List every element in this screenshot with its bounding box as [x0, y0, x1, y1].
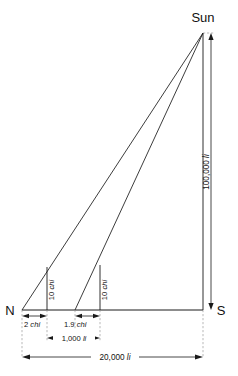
arrow-head-sun-height-top	[208, 33, 213, 40]
arrow-head-station-separation-left	[47, 336, 54, 340]
dimension-shadow-north: 2 chi	[22, 314, 47, 329]
dimension-label-gnomon-north-height: 10 chi	[47, 280, 56, 301]
label-south: S	[217, 303, 226, 318]
label-sun: Sun	[191, 10, 214, 25]
station-separation-value: 1,000	[62, 334, 81, 343]
label-north: N	[5, 303, 14, 318]
dimension-label-station-separation: 1,000 li	[62, 334, 87, 343]
dimension-baseline-total: 20,000 li	[22, 349, 203, 363]
baseline-total-unit: li	[127, 353, 131, 362]
dimension-shadow-south: 1.9 chi	[64, 314, 100, 329]
shadow-south-value: 1.9	[64, 320, 75, 329]
dimension-gnomon-north-height: 10 chi	[47, 280, 56, 301]
gnomon-south-height-unit: chi	[100, 280, 109, 290]
dimension-label-sun-height: 100,000 li	[202, 154, 211, 190]
sun-ray-to-south-station	[75, 33, 203, 310]
arrow-head-shadow-north-right	[40, 314, 47, 318]
arrow-head-shadow-south-left	[75, 314, 82, 318]
extension-lines-group	[22, 33, 215, 358]
sun-height-value: 100,000	[202, 160, 211, 190]
arrow-head-baseline-total-right	[195, 355, 203, 360]
sun-ray-to-north-station	[22, 33, 203, 310]
dimension-station-separation: 1,000 li	[47, 331, 100, 344]
arrow-head-shadow-south-right	[93, 314, 100, 318]
arrow-head-baseline-total-left	[22, 355, 30, 360]
baseline-total-value: 20,000	[100, 353, 125, 362]
dimension-sun-height: 100,000 li	[202, 33, 214, 310]
station-separation-unit: li	[83, 334, 87, 343]
dimension-label-baseline-total: 20,000 li	[100, 353, 131, 362]
dimension-label-gnomon-south-height: 10 chi	[100, 280, 109, 301]
gnomon-north-height-value: 10	[47, 292, 56, 300]
arrow-head-sun-height-bottom	[208, 303, 213, 310]
shadow-north-unit: chi	[30, 320, 40, 329]
gnomon-sun-distance-diagram: 100,000 li 10 chi 10 chi 2 chi 1.9 chi	[0, 0, 238, 376]
shadow-south-unit: chi	[77, 320, 87, 329]
dimension-label-shadow-north: 2 chi	[24, 320, 40, 329]
sun-height-unit: li	[202, 154, 211, 158]
gnomon-north-height-unit: chi	[47, 280, 56, 290]
arrow-head-shadow-north-left	[22, 314, 29, 318]
sun-ray-group	[22, 33, 203, 310]
diagram-canvas: 100,000 li 10 chi 10 chi 2 chi 1.9 chi	[0, 0, 238, 376]
gnomon-south-height-value: 10	[100, 292, 109, 300]
dimension-gnomon-south-height: 10 chi	[100, 280, 109, 301]
dimension-label-shadow-south: 1.9 chi	[64, 320, 87, 329]
